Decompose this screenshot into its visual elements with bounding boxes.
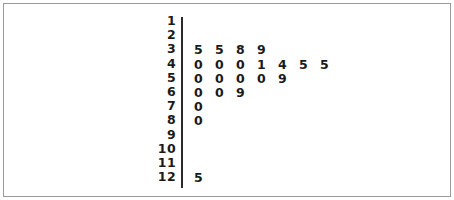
stem-value: 4 (150, 57, 176, 71)
stem-value: 10 (150, 142, 176, 156)
leaf-value: 0 (215, 72, 236, 86)
leaf-value: 4 (278, 58, 299, 72)
leaf-group: 0 (194, 99, 215, 114)
stem-value: 8 (150, 113, 176, 127)
leaf-group: 5589 (194, 42, 278, 57)
stem-leaf-rows: 1235589400014555000096009708091011125 (150, 14, 440, 184)
leaf-value: 5 (215, 43, 236, 57)
leaf-value: 0 (215, 58, 236, 72)
leaf-value: 5 (194, 43, 215, 57)
leaf-value: 0 (236, 72, 257, 86)
leaf-value: 0 (194, 100, 215, 114)
leaf-group: 00009 (194, 71, 299, 86)
stem-leaf-row: 6009 (150, 85, 440, 99)
stem-leaf-row: 70 (150, 99, 440, 113)
leaf-value: 9 (257, 43, 278, 57)
stem-leaf-row: 80 (150, 113, 440, 127)
leaf-value: 1 (257, 58, 278, 72)
leaf-value: 5 (299, 58, 320, 72)
stem-leaf-row: 500009 (150, 71, 440, 85)
stem-value: 7 (150, 99, 176, 113)
leaf-value: 0 (257, 72, 278, 86)
stem-leaf-row: 9 (150, 128, 440, 142)
leaf-value: 0 (194, 72, 215, 86)
leaf-value: 8 (236, 43, 257, 57)
stem-leaf-row: 1 (150, 14, 440, 28)
leaf-group: 0001455 (194, 57, 341, 72)
leaf-group: 0 (194, 113, 215, 128)
leaf-value: 0 (236, 58, 257, 72)
stem-leaf-row: 11 (150, 156, 440, 170)
leaf-value: 0 (194, 86, 215, 100)
stem-value: 11 (150, 156, 176, 170)
stem-leaf-row: 2 (150, 28, 440, 42)
leaf-value: 0 (194, 114, 215, 128)
leaf-group: 5 (194, 170, 215, 185)
leaf-value: 5 (320, 58, 341, 72)
stem-value: 9 (150, 128, 176, 142)
stem-value: 3 (150, 42, 176, 56)
leaf-value: 5 (194, 171, 215, 185)
stem-and-leaf-screenshot: 1235589400014555000096009708091011125 (0, 0, 454, 200)
stem-leaf-row: 125 (150, 170, 440, 184)
stem-leaf-plot: 1235589400014555000096009708091011125 (150, 14, 440, 190)
stem-value: 1 (150, 14, 176, 28)
stem-leaf-row: 40001455 (150, 57, 440, 71)
leaf-value: 0 (215, 86, 236, 100)
stem-leaf-row: 35589 (150, 42, 440, 56)
stem-leaf-row: 10 (150, 142, 440, 156)
leaf-group: 009 (194, 85, 257, 100)
leaf-value: 9 (278, 72, 299, 86)
stem-value: 2 (150, 28, 176, 42)
leaf-value: 9 (236, 86, 257, 100)
stem-value: 6 (150, 85, 176, 99)
stem-value: 5 (150, 71, 176, 85)
stem-value: 12 (150, 170, 176, 184)
leaf-value: 0 (194, 58, 215, 72)
